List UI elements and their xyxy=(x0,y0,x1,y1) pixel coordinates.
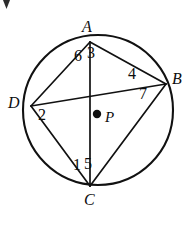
angle-label-4: 4 xyxy=(128,66,136,82)
angle-label-3: 3 xyxy=(87,45,95,61)
angle-label-5: 5 xyxy=(84,156,92,172)
angle-label-2: 2 xyxy=(38,107,46,123)
vertex-label-A: A xyxy=(82,19,92,35)
center-dot-P xyxy=(93,110,101,118)
angle-label-1: 1 xyxy=(73,157,81,173)
vertex-label-B: B xyxy=(172,71,182,87)
chord-BC xyxy=(90,84,166,186)
center-point-group xyxy=(93,110,101,118)
circle-diagram-canvas xyxy=(0,0,194,225)
vertex-label-D: D xyxy=(8,95,20,111)
angle-label-6: 6 xyxy=(74,48,82,64)
center-label-P: P xyxy=(105,110,114,125)
vertex-label-C: C xyxy=(84,192,95,208)
geometry-figure: A B C D P 6 3 4 7 2 1 5 xyxy=(0,0,194,225)
angle-label-7: 7 xyxy=(139,86,147,102)
